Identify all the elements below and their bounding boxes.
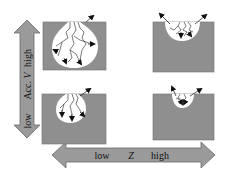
vertical-axis-arrow: high Acc. V low xyxy=(14,20,40,138)
vertical-axis-high-label: high xyxy=(22,49,33,67)
panel-top-right xyxy=(153,14,214,72)
panel-top-left xyxy=(43,16,106,70)
panel-bottom-left xyxy=(42,89,106,144)
vertical-axis-low-label: low xyxy=(22,113,33,129)
vertical-axis-title: Acc. V xyxy=(22,71,33,100)
horizontal-axis-low-label: low xyxy=(95,150,111,161)
panel-bottom-right xyxy=(153,87,214,140)
horizontal-axis-high-label: high xyxy=(151,150,169,161)
horizontal-axis-arrow: low Z high xyxy=(52,142,215,168)
horizontal-axis-title: Z xyxy=(128,150,134,161)
diagram-canvas: high Acc. V low low Z high xyxy=(0,0,225,180)
